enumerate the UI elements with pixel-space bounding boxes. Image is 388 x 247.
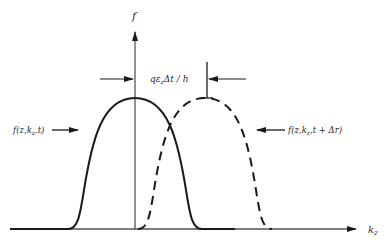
curve-dashed [138, 98, 272, 229]
shift-label: qεzΔt / h [150, 74, 188, 85]
y-axis-label: f [131, 10, 138, 23]
x-axis-label: kz [368, 224, 378, 237]
curve-dashed-label: f(z,kz,t + Δr) [287, 125, 342, 136]
curve-solid [10, 98, 235, 229]
curve-solid-label: f(z,kz,t) [12, 125, 44, 136]
distribution-shift-diagram: f kz qεzΔt / h f(z,kz,t) f(z,kz,t + Δr) [0, 0, 388, 247]
